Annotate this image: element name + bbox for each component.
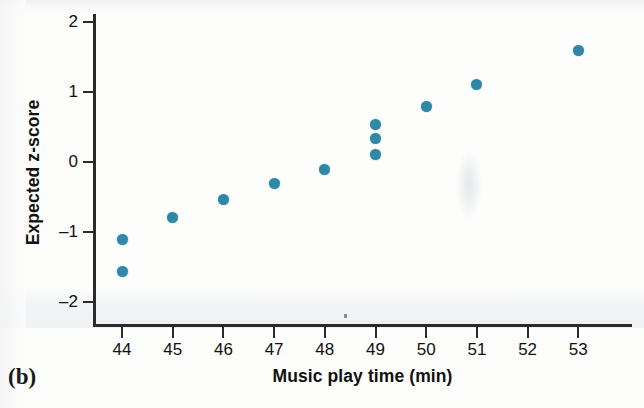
- panel-label: (b): [8, 364, 36, 390]
- data-point: [370, 133, 381, 144]
- y-tick-label-text: 2: [42, 12, 78, 32]
- data-point: [370, 149, 381, 160]
- y-tick-label: 2: [36, 12, 78, 30]
- y-tick-mark: [83, 161, 94, 163]
- x-tick-mark: [375, 327, 377, 338]
- y-tick-mark: [83, 21, 94, 23]
- x-tick-mark: [121, 327, 123, 338]
- y-tick-label-text: 1: [42, 82, 78, 102]
- data-point: [117, 234, 128, 245]
- x-tick-mark: [577, 327, 579, 338]
- data-point: [421, 101, 432, 112]
- data-point: [269, 178, 280, 189]
- data-point: [319, 164, 330, 175]
- x-axis-line: [93, 324, 632, 327]
- scan-smudge: [456, 150, 482, 220]
- y-tick-label-text: –1: [42, 222, 78, 242]
- data-point: [573, 45, 584, 56]
- data-point: [167, 212, 178, 223]
- data-point: [117, 266, 128, 277]
- y-axis-line: [93, 14, 96, 327]
- normal-probability-plot-figure: 210–1–2 44454647484950515253 Expected z-…: [0, 0, 644, 408]
- x-axis-title: Music play time (min): [93, 366, 632, 387]
- x-tick-mark: [324, 327, 326, 338]
- x-tick-mark: [425, 327, 427, 338]
- x-tick-label: 51: [457, 340, 497, 360]
- x-tick-label: 49: [356, 340, 396, 360]
- data-point: [218, 194, 229, 205]
- y-axis-title: Expected z-score: [23, 73, 44, 273]
- y-tick-mark: [83, 91, 94, 93]
- x-tick-label: 48: [305, 340, 345, 360]
- x-tick-mark: [273, 327, 275, 338]
- x-tick-label: 50: [406, 340, 446, 360]
- x-tick-label: 47: [254, 340, 294, 360]
- y-tick-label-text: –2: [42, 292, 78, 312]
- y-tick-label: –2: [36, 292, 78, 310]
- x-tick-label: 52: [508, 340, 548, 360]
- y-tick-mark: [83, 301, 94, 303]
- scan-fleck: [344, 314, 347, 318]
- x-tick-label: 46: [203, 340, 243, 360]
- y-tick-label-text: 0: [42, 152, 78, 172]
- x-tick-mark: [222, 327, 224, 338]
- x-tick-label: 45: [153, 340, 193, 360]
- scan-tint-top: [0, 0, 644, 14]
- y-tick-mark: [83, 231, 94, 233]
- x-tick-label: 53: [558, 340, 598, 360]
- scan-tint-bottom: [0, 286, 644, 328]
- x-tick-mark: [172, 327, 174, 338]
- x-tick-label: 44: [102, 340, 142, 360]
- data-point: [471, 79, 482, 90]
- x-tick-mark: [476, 327, 478, 338]
- data-point: [370, 119, 381, 130]
- x-tick-mark: [527, 327, 529, 338]
